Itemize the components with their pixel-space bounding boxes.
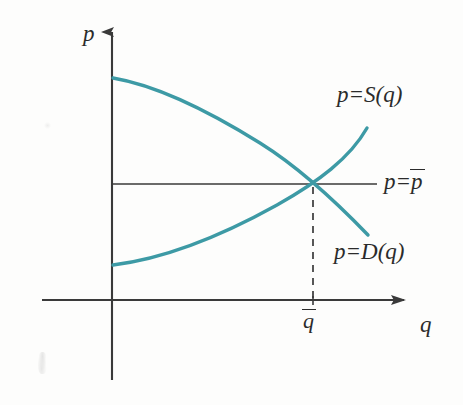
demand-label-p: p xyxy=(334,239,346,264)
supply-demand-figure: p q q p=S(q) p=p p=D(q) xyxy=(0,0,463,405)
supply-curve-label: p=S(q) xyxy=(337,83,402,106)
equilibrium-price-label: p=p xyxy=(384,170,423,193)
pbar-label-p: p xyxy=(384,169,396,194)
equilibrium-quantity-label: q xyxy=(303,310,314,332)
scan-artifact-speck xyxy=(44,122,51,129)
supply-label-p: p xyxy=(337,82,349,107)
demand-label-body: D(q) xyxy=(361,239,404,264)
p-axis-label-text: p xyxy=(83,21,95,46)
q-bar-text: q xyxy=(303,310,314,332)
demand-curve-label: p=D(q) xyxy=(334,240,404,263)
pbar-label-body: p xyxy=(411,170,423,193)
supply-label-body: S(q) xyxy=(364,82,402,107)
scan-artifact-mark xyxy=(38,352,47,374)
pbar-label-equals: = xyxy=(396,169,412,194)
demand-curve xyxy=(113,78,368,235)
figure-canvas xyxy=(0,0,463,405)
demand-label-equals: = xyxy=(346,239,362,264)
p-axis-label: p xyxy=(83,22,95,45)
q-axis-label-text: q xyxy=(420,312,432,337)
supply-label-equals: = xyxy=(349,82,365,107)
q-axis-label: q xyxy=(420,313,432,336)
